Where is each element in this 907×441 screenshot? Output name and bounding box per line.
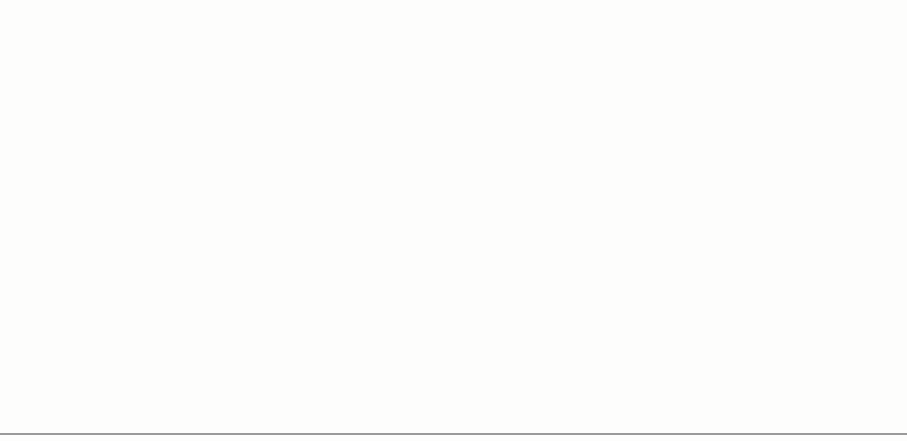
chart-figure [0, 0, 907, 441]
employment-unemployment-line-chart [0, 0, 907, 441]
